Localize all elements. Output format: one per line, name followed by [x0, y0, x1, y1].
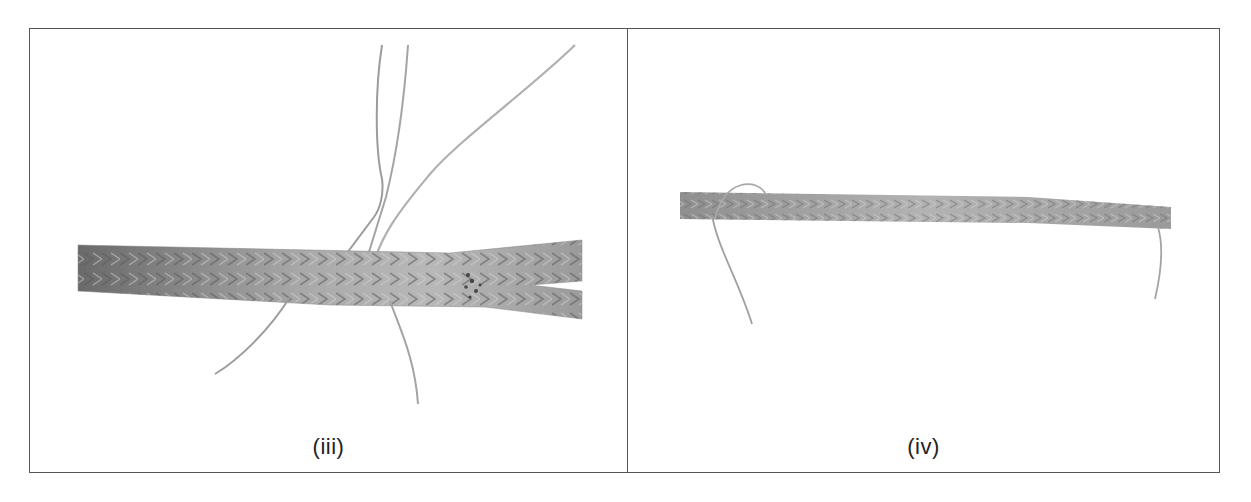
panel-iii: (iii)	[30, 29, 628, 472]
panel-label-iii: (iii)	[30, 434, 627, 460]
braided-rope-image-iv	[628, 29, 1220, 474]
figure-frame: (iii) (iv)	[29, 28, 1220, 473]
panel-iv: (iv)	[628, 29, 1219, 472]
braided-rope-image-iii	[30, 29, 628, 474]
panel-label-iv: (iv)	[628, 434, 1219, 460]
